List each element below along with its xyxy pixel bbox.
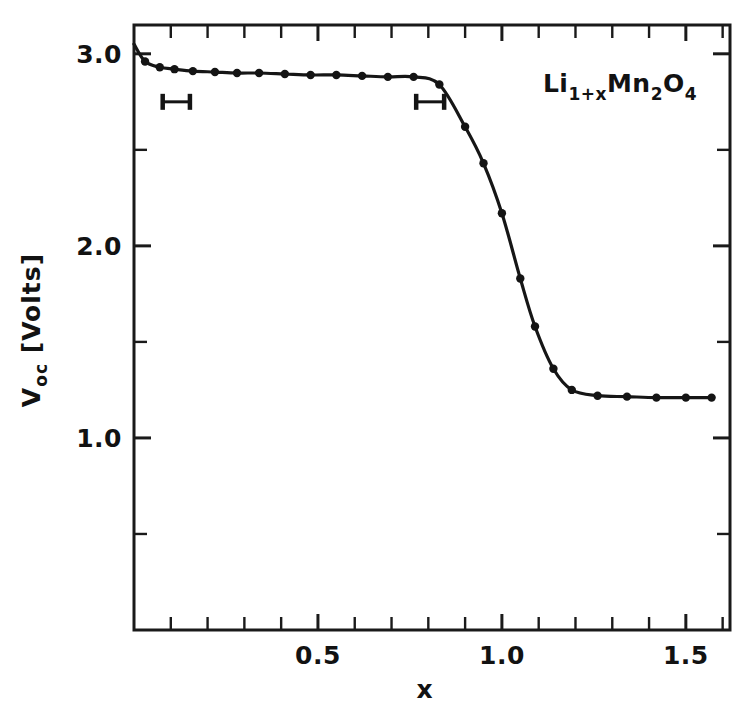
data-point [531,322,539,330]
plot-frame [134,25,730,630]
axis-frame-path [134,25,730,630]
x-tick-label: 0.5 [295,641,341,670]
data-point [435,80,443,88]
data-point [233,69,241,77]
x-axis-top-ticks [171,25,723,41]
y-axis-title-group: Voc [Volts] [17,253,51,407]
y-tick-label: 3.0 [76,40,122,69]
data-point [306,71,314,79]
x-tick-label: 1.5 [663,641,709,670]
x-axis-major-ticks [318,614,686,630]
data-point [332,71,340,79]
data-point [255,69,263,77]
formula-part-1plusx: 1+x [568,84,607,104]
data-point [479,159,487,167]
x-axis-title: x [416,675,433,704]
voc-vs-x-chart: 0.51.01.5 3.02.01.0 x Voc [Volts] Li1+xM… [0,0,746,711]
y-axis-right-ticks [713,54,730,534]
y-axis-title-unit: [Volts] [17,253,46,363]
formula-part-li: Li [543,69,569,98]
data-point [211,68,219,76]
data-point [707,393,715,401]
compound-formula-annotation: Li1+xMn2O4 [543,69,697,104]
x-tick-label: 1.0 [479,641,525,670]
x-axis-tick-labels: 0.51.01.5 [295,641,709,670]
y-tick-label: 1.0 [76,424,122,453]
data-point [568,386,576,394]
data-point [384,73,392,81]
y-axis-title-subscript: oc [31,363,51,387]
figure-container: 0.51.01.5 3.02.01.0 x Voc [Volts] Li1+xM… [0,0,746,711]
data-point [498,209,506,217]
data-point [156,63,164,71]
data-point [623,392,631,400]
data-point [593,391,601,399]
y-tick-label: 2.0 [76,232,122,261]
data-point [358,72,366,80]
data-point [189,67,197,75]
error-bar-group [163,94,444,110]
data-point [516,274,524,282]
formula-part-4: 4 [685,84,697,104]
y-axis-title: Voc [Volts] [17,253,51,407]
formula-part-mn: Mn [607,69,651,98]
data-point [549,365,557,373]
x-axis-minor-ticks [171,617,723,630]
formula-part-2: 2 [651,84,663,104]
y-axis-major-ticks [134,54,151,438]
data-point [409,73,417,81]
data-point [141,57,149,65]
y-axis-minor-ticks [134,150,147,534]
data-point [461,123,469,131]
y-axis-tick-labels: 3.02.01.0 [76,40,122,453]
data-point [682,393,690,401]
data-point [170,65,178,73]
data-point [652,393,660,401]
series-markers-voc [141,57,716,402]
formula-part-o: O [663,69,685,98]
y-axis-title-main: V [17,387,46,407]
data-point [281,70,289,78]
